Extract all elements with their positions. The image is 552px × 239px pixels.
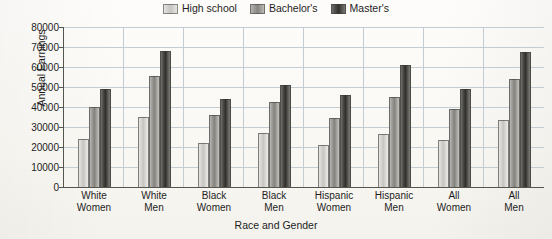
bar	[78, 139, 89, 187]
legend-item-high-school: High school	[163, 3, 237, 14]
y-axis-tick-labels: 8000070000600005000040000300002000010000…	[10, 27, 59, 187]
x-axis-tick-labels: WhiteWomenWhiteMenBlackWomenBlackMenHisp…	[64, 190, 544, 213]
bar-group	[64, 27, 124, 187]
bar-group	[304, 27, 364, 187]
y-axis-tick-label: 10000	[31, 162, 59, 173]
y-axis-tick-label: 20000	[31, 142, 59, 153]
y-axis-tick-label: 80000	[31, 22, 59, 33]
bar	[138, 117, 149, 187]
legend-item-bachelors: Bachelor's	[250, 3, 318, 14]
x-axis-tick-label: AllMen	[484, 190, 544, 213]
chart-legend: High school Bachelor's Master's	[0, 3, 552, 14]
legend-label-high-school: High school	[182, 3, 237, 14]
bar	[209, 115, 220, 187]
bar-group	[364, 27, 424, 187]
bar-group-bars	[64, 27, 124, 187]
bar	[498, 120, 509, 187]
bar-group	[244, 27, 304, 187]
bar	[149, 76, 160, 187]
bar	[280, 85, 291, 187]
bar	[460, 89, 471, 187]
bar	[198, 143, 209, 187]
bar	[400, 65, 411, 187]
bar-group-bars	[244, 27, 304, 187]
bar	[340, 95, 351, 187]
bar-group	[484, 27, 544, 187]
plot-area	[64, 27, 544, 187]
legend-swatch-icon-bachelors	[250, 4, 265, 14]
bar-group	[124, 27, 184, 187]
bar-group-bars	[184, 27, 244, 187]
legend-swatch-icon-high-school	[163, 4, 178, 14]
y-axis-tick-label: 30000	[31, 122, 59, 133]
x-axis-tick-label: AllWomen	[424, 190, 484, 213]
bar-group-bars	[304, 27, 364, 187]
bar	[100, 89, 111, 187]
y-axis-tick-label: 60000	[31, 62, 59, 73]
x-axis-tick-label: HispanicWomen	[304, 190, 364, 213]
bar-group-bars	[484, 27, 544, 187]
bar-group	[424, 27, 484, 187]
y-axis-tick-label: 50000	[31, 82, 59, 93]
x-axis-tick-label: WhiteMen	[124, 190, 184, 213]
y-axis-tick-label: 40000	[31, 102, 59, 113]
bar	[329, 118, 340, 187]
legend-swatch-icon-masters	[331, 4, 346, 14]
bar-group-bars	[364, 27, 424, 187]
x-axis-tick-label: BlackWomen	[184, 190, 244, 213]
bar	[258, 133, 269, 187]
bar	[378, 134, 389, 187]
bar-groups	[64, 27, 544, 187]
bar	[509, 79, 520, 187]
x-axis-tick-label: BlackMen	[244, 190, 304, 213]
bar	[220, 99, 231, 187]
bar	[89, 107, 100, 187]
x-axis-title: Race and Gender	[0, 219, 552, 231]
y-axis-tick-label: 70000	[31, 42, 59, 53]
bar	[389, 97, 400, 187]
legend-label-bachelors: Bachelor's	[269, 3, 318, 14]
bar	[449, 109, 460, 187]
bar	[520, 52, 531, 187]
bar-group	[184, 27, 244, 187]
bar	[438, 140, 449, 187]
x-axis-tick-label: HispanicMen	[364, 190, 424, 213]
bar	[318, 145, 329, 187]
bar	[160, 51, 171, 187]
bar-group-bars	[124, 27, 184, 187]
y-axis-tick	[59, 187, 64, 188]
bar-group-bars	[424, 27, 484, 187]
x-axis-tick-label: WhiteWomen	[64, 190, 124, 213]
bar	[269, 102, 280, 187]
legend-item-masters: Master's	[331, 3, 389, 14]
legend-label-masters: Master's	[350, 3, 389, 14]
